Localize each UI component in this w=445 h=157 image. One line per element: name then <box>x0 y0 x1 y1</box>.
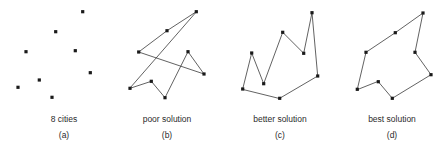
city-node <box>377 80 380 83</box>
city-node <box>74 49 77 52</box>
city-node <box>16 86 19 89</box>
city-node <box>364 51 367 54</box>
tour-path-panel-b <box>130 12 204 98</box>
city-node <box>195 10 198 13</box>
city-node <box>150 80 153 83</box>
tour-path-panel-d <box>357 13 431 98</box>
city-node <box>163 96 166 99</box>
tour-edges-layer <box>130 12 431 99</box>
city-node <box>250 51 253 54</box>
city-node <box>54 30 57 33</box>
city-node <box>241 87 244 90</box>
tour-path-panel-c <box>243 13 318 99</box>
tsp-diagram-canvas <box>0 0 445 157</box>
city-node <box>316 74 319 77</box>
city-node <box>81 10 84 13</box>
city-node <box>50 96 53 99</box>
city-node <box>421 11 424 14</box>
city-node <box>391 97 394 100</box>
city-node <box>89 71 92 74</box>
city-node <box>394 31 397 34</box>
city-node <box>413 51 416 54</box>
tsp-figure: 8 cities(a)poor solution(b)better soluti… <box>0 0 445 157</box>
city-node <box>186 50 189 53</box>
city-node <box>262 82 265 85</box>
city-nodes-layer <box>16 10 432 100</box>
city-node <box>128 87 131 90</box>
city-node <box>429 73 432 76</box>
city-node <box>165 29 168 32</box>
city-node <box>302 52 305 55</box>
city-node <box>281 31 284 34</box>
city-node <box>202 72 205 75</box>
city-node <box>278 97 281 100</box>
city-node <box>310 11 313 14</box>
city-node <box>356 88 359 91</box>
city-node <box>38 78 41 81</box>
city-node <box>24 50 27 53</box>
city-node <box>137 50 140 53</box>
